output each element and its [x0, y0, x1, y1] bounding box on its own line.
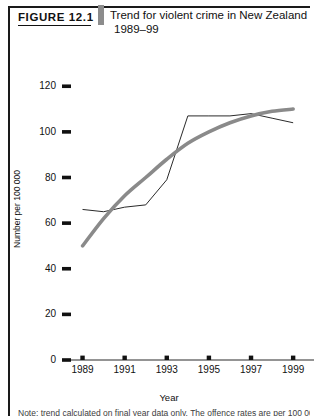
- y-tick-mark: [62, 267, 71, 271]
- x-axis-tick-marks: [80, 356, 295, 360]
- chart-canvas: [0, 46, 318, 376]
- y-tick-label: 100: [22, 126, 56, 137]
- figure-title-line-2: 1989–99: [110, 22, 310, 36]
- x-tick-mark: [80, 356, 84, 360]
- figure-title: Trend for violent crime in New Zealand 1…: [110, 8, 310, 36]
- x-tick-label: 1997: [231, 364, 271, 375]
- y-tick-label: 120: [22, 80, 56, 91]
- figure-number-underline: [18, 25, 91, 26]
- y-tick-label: 0: [22, 354, 56, 365]
- figure-number-label: FIGURE 12.1: [18, 11, 94, 23]
- chart-series-group: [83, 109, 294, 246]
- y-tick-label: 20: [22, 308, 56, 319]
- x-tick-label: 1999: [273, 364, 313, 375]
- x-tick-label: 1989: [63, 364, 103, 375]
- chart-plot-area: Number per 100 000 020406080100120 19891…: [0, 46, 318, 376]
- y-tick-mark: [62, 176, 71, 180]
- x-tick-label: 1995: [189, 364, 229, 375]
- header-divider-block: [98, 5, 104, 25]
- x-tick-mark: [249, 356, 253, 360]
- figure-title-line-1: Trend for violent crime in New Zealand: [110, 9, 307, 21]
- figure-header: FIGURE 12.1 Trend for violent crime in N…: [0, 0, 318, 46]
- trend-line-series: [83, 109, 294, 246]
- y-tick-mark: [62, 358, 71, 362]
- x-tick-mark: [207, 356, 211, 360]
- x-tick-mark: [291, 356, 295, 360]
- y-tick-label: 60: [22, 217, 56, 228]
- figure-footnote: Note: trend calculated on final year dat…: [18, 408, 310, 416]
- y-tick-label: 80: [22, 172, 56, 183]
- x-tick-label: 1993: [147, 364, 187, 375]
- y-tick-mark: [62, 84, 71, 88]
- y-tick-mark: [62, 221, 71, 225]
- y-tick-label: 40: [22, 263, 56, 274]
- x-axis-title: Year: [139, 392, 199, 403]
- violent-crime-rate-series: [83, 114, 294, 212]
- y-axis-tick-marks: [62, 84, 71, 361]
- x-tick-mark: [122, 356, 126, 360]
- y-tick-mark: [62, 313, 71, 317]
- y-tick-mark: [62, 130, 71, 134]
- figure-container: FIGURE 12.1 Trend for violent crime in N…: [0, 0, 318, 416]
- x-tick-mark: [165, 356, 169, 360]
- x-tick-label: 1991: [105, 364, 145, 375]
